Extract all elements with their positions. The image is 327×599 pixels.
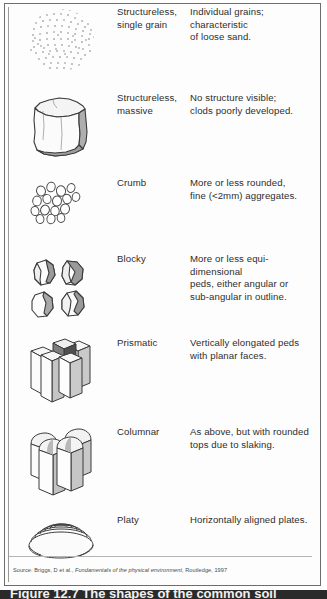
massive-block-icon (5, 90, 117, 164)
table-row: Columnar As above, but with rounded tops… (5, 424, 320, 512)
platy-icon (5, 512, 117, 568)
single-grain-icon (5, 4, 117, 76)
columnar-icon (5, 424, 117, 506)
crumb-icon (5, 175, 117, 237)
table-row: Platy Horizontally aligned plates. (5, 512, 320, 574)
caption-bar: Figure 12.7 The shapes of the common soi… (0, 590, 327, 599)
soil-structure-figure: Structureless, single grain Individual g… (0, 0, 327, 599)
structure-description: No structure visible; clods poorly devel… (190, 90, 320, 117)
structure-name: Prismatic (117, 335, 190, 350)
source-suffix: , Routledge, 1997 (182, 567, 227, 573)
structure-description: More or less rounded, fine (<2mm) aggreg… (190, 175, 320, 202)
caption-text: Figure 12.7 The shapes of the common soi… (10, 590, 277, 599)
table-row: Prismatic Vertically elongated peds with… (5, 335, 320, 424)
structure-name: Structureless, massive (117, 90, 190, 117)
structure-name: Platy (117, 512, 190, 527)
structure-description: Vertically elongated peds with planar fa… (190, 335, 320, 362)
structure-name: Structureless, single grain (117, 4, 190, 31)
structure-name: Blocky (117, 251, 190, 266)
structure-description: More or less equi-dimensional peds, eith… (190, 251, 320, 303)
soil-structure-table: Structureless, single grain Individual g… (5, 4, 320, 574)
source-prefix: Source: (13, 567, 34, 573)
blocky-icon (5, 251, 117, 325)
source-separator (9, 556, 312, 557)
table-row: Blocky More or less equi-dimensional ped… (5, 251, 320, 335)
structure-description: Horizontally aligned plates. (190, 512, 320, 527)
table-row: Structureless, single grain Individual g… (5, 4, 320, 90)
source-citation: Source: Briggs, D et al., Fundamentals o… (13, 566, 313, 574)
table-row: Crumb More or less rounded, fine (<2mm) … (5, 175, 320, 251)
prismatic-icon (5, 335, 117, 417)
structure-name: Crumb (117, 175, 190, 190)
table-row: Structureless, massive No structure visi… (5, 90, 320, 175)
structure-description: As above, but with rounded tops due to s… (190, 424, 320, 451)
source-title: Fundamentals of the physical environment (75, 567, 182, 573)
structure-description: Individual grains; characteristic of loo… (190, 4, 320, 44)
structure-name: Columnar (117, 424, 190, 439)
source-author: Briggs, D et al., (34, 567, 75, 573)
